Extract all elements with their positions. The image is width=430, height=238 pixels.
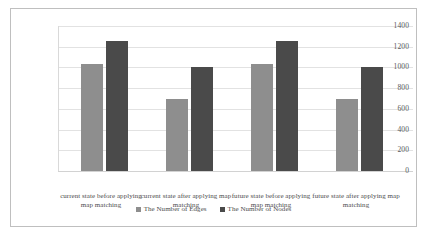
bar-group-0 bbox=[62, 26, 147, 171]
legend-label-edges: The Number of Edges bbox=[144, 205, 207, 213]
plot-area: 1400 1200 1000 800 600 400 200 0 current… bbox=[58, 26, 413, 171]
bar-edges-0[interactable] bbox=[81, 64, 103, 171]
chart-legend: The Number of Edges The Number of Nodes bbox=[11, 205, 416, 213]
bar-group-3 bbox=[317, 26, 402, 171]
bar-nodes-1[interactable] bbox=[191, 67, 213, 171]
y-tick-label-0: 0 bbox=[405, 167, 409, 175]
legend-label-nodes: The Number of Nodes bbox=[228, 205, 292, 213]
square-marker-light-icon bbox=[136, 207, 141, 212]
legend-entry-edges[interactable]: The Number of Edges bbox=[136, 205, 207, 213]
value-axis-line bbox=[58, 26, 59, 171]
chart-container: 1400 1200 1000 800 600 400 200 0 current… bbox=[10, 8, 417, 227]
bar-nodes-0[interactable] bbox=[106, 41, 128, 171]
bar-nodes-2[interactable] bbox=[276, 41, 298, 171]
bar-group-2 bbox=[232, 26, 317, 171]
bar-group-1 bbox=[147, 26, 232, 171]
bar-edges-3[interactable] bbox=[336, 99, 358, 172]
gridline-0-baseline bbox=[58, 171, 413, 172]
bar-edges-1[interactable] bbox=[166, 99, 188, 172]
bar-edges-2[interactable] bbox=[251, 64, 273, 171]
square-marker-dark-icon bbox=[220, 207, 225, 212]
legend-entry-nodes[interactable]: The Number of Nodes bbox=[220, 205, 292, 213]
bar-nodes-3[interactable] bbox=[361, 67, 383, 171]
